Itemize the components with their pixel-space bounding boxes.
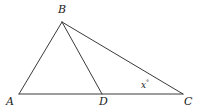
vertex-label-c: C — [184, 96, 192, 107]
angle-label-x: x° — [141, 77, 149, 90]
segment-BD — [62, 22, 102, 94]
vertex-label-d: D — [99, 96, 108, 107]
segment-AB — [19, 22, 62, 94]
degree-symbol: ° — [146, 78, 149, 85]
segment-BC — [62, 22, 183, 94]
vertex-label-a: A — [6, 96, 14, 107]
vertex-label-b: B — [58, 4, 66, 15]
geometry-figure: A B D C x° — [0, 0, 201, 111]
